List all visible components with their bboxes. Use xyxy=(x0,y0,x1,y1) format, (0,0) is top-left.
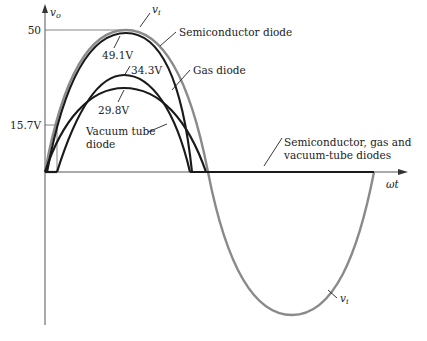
y-axis-arrow-icon xyxy=(42,4,48,13)
x-axis-arrow-icon xyxy=(398,169,408,175)
peak-semi-leader xyxy=(114,36,120,48)
vi-bottom-label: vi xyxy=(340,292,349,306)
y-axis-label: vo xyxy=(50,6,61,20)
gas-leader xyxy=(172,70,190,90)
gas-label: Gas diode xyxy=(193,64,246,76)
vi-top-leader xyxy=(140,13,150,27)
peak-gas-label: 34.3V xyxy=(131,64,162,76)
gas-diode-output xyxy=(57,75,190,172)
negative-label-line1: Semiconductor, gas and xyxy=(284,136,412,148)
negative-leader xyxy=(264,138,282,166)
vacuum-label-line2: diode xyxy=(86,138,115,150)
rectifier-diagram: vo ωt 50 15.7V vi Semiconductor diode 49… xyxy=(0,0,427,341)
vi-top-label: vi xyxy=(152,3,161,17)
peak-semi-label: 49.1V xyxy=(102,49,133,61)
peak-vacuum-leader xyxy=(118,90,124,102)
vacuum-label-line1: Vacuum tube xyxy=(85,125,156,137)
negative-label-line2: vacuum-tube diodes xyxy=(283,149,391,161)
semiconductor-label: Semiconductor diode xyxy=(179,26,292,38)
y-tick-50: 50 xyxy=(28,24,41,36)
peak-vacuum-label: 29.8V xyxy=(98,104,129,116)
y-tick-15-7: 15.7V xyxy=(10,119,41,131)
x-axis-label: ωt xyxy=(386,178,400,190)
semiconductor-leader xyxy=(160,32,176,46)
